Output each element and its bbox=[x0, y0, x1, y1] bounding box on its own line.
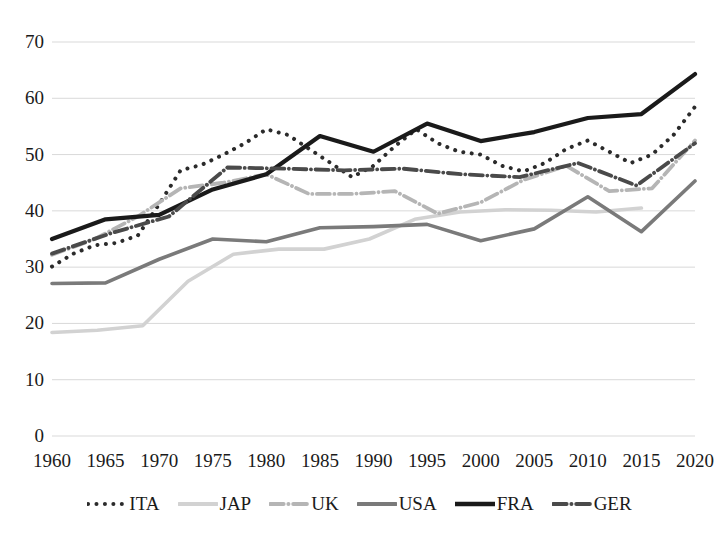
legend-label: FRA bbox=[497, 493, 534, 515]
line-chart-figure: 706050403020100 196019651970197519801985… bbox=[0, 0, 719, 543]
y-tick-label: 40 bbox=[4, 201, 44, 220]
y-tick-label: 50 bbox=[4, 145, 44, 164]
y-tick-label: 20 bbox=[4, 313, 44, 332]
y-tick-label: 60 bbox=[4, 88, 44, 107]
legend-item-ita[interactable]: ITA bbox=[87, 493, 159, 515]
legend-item-fra[interactable]: FRA bbox=[455, 493, 534, 515]
legend-label: ITA bbox=[129, 493, 159, 515]
series-line-usa bbox=[52, 181, 695, 283]
y-tick-label: 30 bbox=[4, 257, 44, 276]
legend-swatch-fra-icon bbox=[455, 497, 495, 511]
y-tick-label: 70 bbox=[4, 32, 44, 51]
x-tick-label: 1995 bbox=[400, 451, 454, 470]
legend-label: GER bbox=[594, 493, 632, 515]
x-tick-label: 1965 bbox=[79, 451, 133, 470]
y-tick-label: 0 bbox=[4, 426, 44, 445]
x-tick-label: 2010 bbox=[561, 451, 615, 470]
x-tick-label: 1980 bbox=[239, 451, 293, 470]
chart-legend: ITAJAPUKUSAFRAGER bbox=[0, 487, 719, 521]
x-tick-label: 2015 bbox=[614, 451, 668, 470]
y-tick-label: 10 bbox=[4, 370, 44, 389]
x-tick-label: 1985 bbox=[293, 451, 347, 470]
x-tick-label: 2000 bbox=[454, 451, 508, 470]
data-series-group bbox=[52, 74, 695, 332]
series-line-ita bbox=[52, 107, 695, 267]
legend-label: JAP bbox=[220, 493, 252, 515]
legend-swatch-uk-icon bbox=[269, 497, 309, 511]
legend-item-jap[interactable]: JAP bbox=[178, 493, 252, 515]
legend-item-ger[interactable]: GER bbox=[552, 493, 632, 515]
x-tick-label: 1960 bbox=[25, 451, 79, 470]
x-tick-label: 1970 bbox=[132, 451, 186, 470]
x-tick-label: 2020 bbox=[668, 451, 719, 470]
x-tick-label: 1975 bbox=[186, 451, 240, 470]
x-tick-label: 1990 bbox=[347, 451, 401, 470]
legend-swatch-usa-icon bbox=[357, 497, 397, 511]
legend-swatch-jap-icon bbox=[178, 497, 218, 511]
legend-swatch-ger-icon bbox=[552, 497, 592, 511]
legend-item-usa[interactable]: USA bbox=[357, 493, 437, 515]
legend-label: UK bbox=[311, 493, 338, 515]
series-line-fra bbox=[52, 74, 695, 239]
legend-swatch-ita-icon bbox=[87, 497, 127, 511]
legend-item-uk[interactable]: UK bbox=[269, 493, 338, 515]
x-tick-label: 2005 bbox=[507, 451, 561, 470]
legend-label: USA bbox=[399, 493, 437, 515]
